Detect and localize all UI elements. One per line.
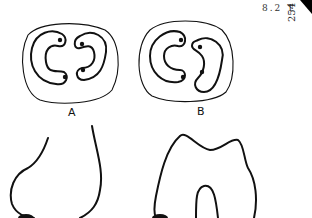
panel-label-b: B [197, 105, 205, 118]
panel-label-a: A [68, 106, 76, 119]
lower-right-tooth [155, 135, 257, 218]
panel-b-outline [139, 21, 233, 102]
panel-a-right-canal [75, 33, 106, 80]
panel-b-right-canal [192, 38, 223, 92]
lower-left-tooth [11, 126, 101, 218]
canal-dots [58, 38, 204, 79]
figure-drawing [0, 0, 312, 218]
